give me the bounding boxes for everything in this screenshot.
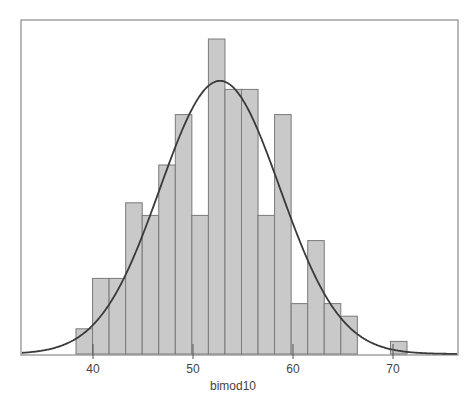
histogram-bar <box>126 203 143 354</box>
x-tick-label: 50 <box>186 362 200 376</box>
histogram-bar <box>159 165 176 354</box>
x-tick-label: 60 <box>286 362 300 376</box>
histogram-bar <box>225 89 242 354</box>
histogram-bar <box>324 304 341 354</box>
histogram-bar <box>291 304 308 354</box>
histogram-chart: 40506070 bimod10 <box>0 0 475 402</box>
histogram-bar <box>142 215 159 354</box>
x-tick-label: 70 <box>386 362 400 376</box>
histogram-bar <box>275 115 292 354</box>
histogram-bar <box>258 215 275 354</box>
x-axis-label: bimod10 <box>210 379 256 393</box>
x-tick-label: 40 <box>86 362 100 376</box>
histogram-bar <box>192 215 209 354</box>
chart-canvas: 40506070 bimod10 <box>0 0 475 402</box>
histogram-bar <box>175 115 192 354</box>
histogram-bar <box>308 241 325 354</box>
histogram-bar <box>242 89 259 354</box>
histogram-bar <box>208 39 225 354</box>
histogram-bars <box>76 39 407 354</box>
